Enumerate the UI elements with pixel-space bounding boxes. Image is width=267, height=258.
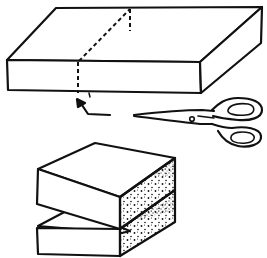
illustration-canvas: Line drawing showing a box being cut wit… — [0, 0, 267, 258]
scissors-icon — [134, 98, 262, 147]
bottom-stack — [37, 143, 175, 256]
top-box — [7, 7, 262, 97]
top-box-front-face — [7, 60, 201, 93]
tick-mark — [89, 93, 90, 97]
arrow-icon — [77, 99, 110, 115]
lower-piece-front-face — [37, 228, 120, 256]
